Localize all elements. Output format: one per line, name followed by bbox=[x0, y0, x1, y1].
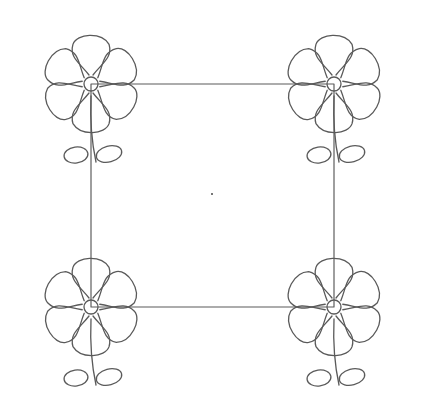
flower-square-drawing bbox=[0, 0, 423, 417]
connecting-square bbox=[91, 84, 334, 307]
flower-stem bbox=[91, 319, 96, 385]
leaf-left bbox=[63, 145, 89, 164]
petal bbox=[72, 35, 110, 75]
petal bbox=[315, 35, 353, 75]
leaf-right bbox=[337, 366, 366, 388]
leaf-right bbox=[94, 366, 123, 388]
leaf-left bbox=[306, 368, 332, 387]
leaf-left bbox=[306, 145, 332, 164]
quilting-diagram bbox=[0, 0, 423, 417]
leaf-right bbox=[337, 143, 366, 165]
square-outline bbox=[91, 84, 334, 307]
center-dot bbox=[211, 193, 213, 195]
leaf-right bbox=[94, 143, 123, 165]
leaf-left bbox=[63, 368, 89, 387]
flower-stem bbox=[334, 319, 339, 385]
